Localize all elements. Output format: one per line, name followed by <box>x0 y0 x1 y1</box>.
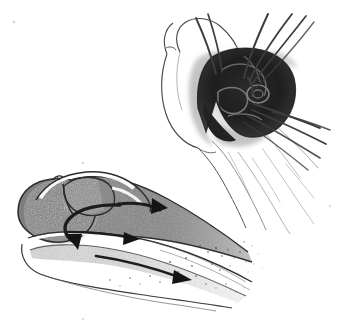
figure-container <box>0 0 356 323</box>
illustration-canvas <box>0 0 356 323</box>
